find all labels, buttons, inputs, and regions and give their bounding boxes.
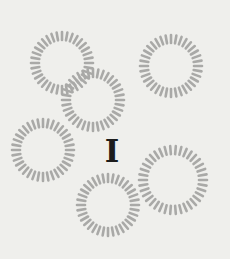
tick-ring [12,119,74,181]
decorative-plate: I [0,0,230,259]
tick-ring [31,32,93,94]
tick-ring [62,69,124,131]
tick-ring [77,174,139,236]
tick-ring [140,35,202,97]
roman-numeral-label: I [102,136,122,167]
tick-rings [0,0,230,259]
tick-ring [139,146,207,214]
